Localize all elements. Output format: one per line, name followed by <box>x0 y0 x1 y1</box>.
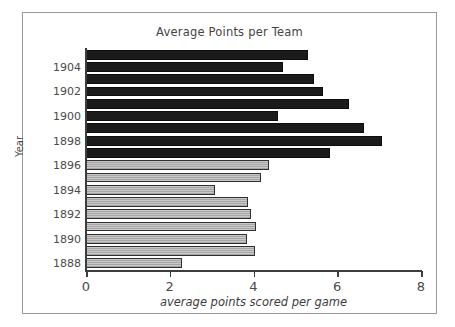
y-axis-tick-labels: 190419021900189818961894189218901888 <box>29 49 81 270</box>
x-tick-label-8: 8 <box>401 279 441 294</box>
bar-row <box>86 159 421 171</box>
bar-1896[interactable] <box>86 160 269 170</box>
plot-area <box>86 49 421 270</box>
x-tick-2 <box>170 271 172 277</box>
bar-1901[interactable] <box>86 99 349 109</box>
bar-1900[interactable] <box>86 111 278 121</box>
x-tick-label-2: 2 <box>150 279 190 294</box>
bar-row <box>86 86 421 98</box>
bar-row <box>86 196 421 208</box>
bar-row <box>86 172 421 184</box>
bar-1904[interactable] <box>86 62 283 72</box>
x-tick-label-6: 6 <box>317 279 357 294</box>
x-tick-4 <box>254 271 256 277</box>
y-tick-label-1890: 1890 <box>35 234 81 245</box>
y-tick-label-1902: 1902 <box>35 86 81 97</box>
bar-1888[interactable] <box>86 258 182 268</box>
y-tick-label-1888: 1888 <box>35 258 81 269</box>
bar-1890[interactable] <box>86 234 247 244</box>
bar-1902[interactable] <box>86 87 323 97</box>
y-tick-label-1898: 1898 <box>35 136 81 147</box>
bar-1905[interactable] <box>86 50 308 60</box>
bar-row <box>86 110 421 122</box>
bar-1897[interactable] <box>86 148 330 158</box>
x-tick-8 <box>421 271 423 277</box>
x-tick-0 <box>86 271 88 277</box>
bar-row <box>86 61 421 73</box>
bar-series <box>86 49 421 270</box>
bar-row <box>86 184 421 196</box>
x-axis-title: average points scored per game <box>85 295 422 309</box>
bar-row <box>86 98 421 110</box>
x-tick-label-0: 0 <box>66 279 106 294</box>
bar-1899[interactable] <box>86 123 364 133</box>
bar-row <box>86 135 421 147</box>
bar-1892[interactable] <box>86 209 251 219</box>
x-tick-6 <box>337 271 339 277</box>
y-tick-label-1892: 1892 <box>35 209 81 220</box>
bar-row <box>86 233 421 245</box>
bar-row <box>86 221 421 233</box>
y-tick-label-1894: 1894 <box>35 185 81 196</box>
bar-row <box>86 147 421 159</box>
bar-1889[interactable] <box>86 246 255 256</box>
chart-figure: Average Points per Team Year 19041902190… <box>22 12 437 314</box>
x-tick-label-4: 4 <box>234 279 274 294</box>
bar-1894[interactable] <box>86 185 215 195</box>
chart-title: Average Points per Team <box>23 25 436 39</box>
y-tick-label-1896: 1896 <box>35 160 81 171</box>
bar-1898[interactable] <box>86 136 382 146</box>
bar-row <box>86 208 421 220</box>
bar-1903[interactable] <box>86 74 314 84</box>
y-tick-label-1900: 1900 <box>35 111 81 122</box>
bar-row <box>86 74 421 86</box>
y-axis-title: Year <box>14 136 25 157</box>
y-tick-label-1904: 1904 <box>35 62 81 73</box>
bar-1893[interactable] <box>86 197 248 207</box>
bar-1895[interactable] <box>86 173 261 183</box>
y-axis-line <box>85 48 87 271</box>
bar-row <box>86 245 421 257</box>
bar-row <box>86 258 421 270</box>
bar-row <box>86 49 421 61</box>
bar-1891[interactable] <box>86 222 256 232</box>
bar-row <box>86 123 421 135</box>
